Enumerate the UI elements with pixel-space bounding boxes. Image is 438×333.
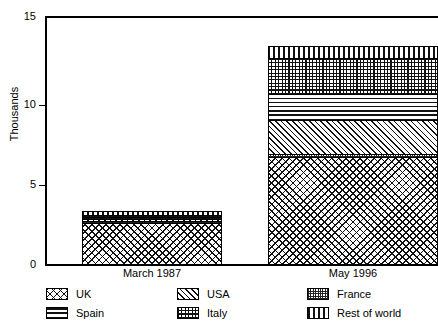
legend-swatch-spain: [46, 307, 68, 319]
legend-swatch-italy: [177, 307, 199, 319]
legend-item-italy[interactable]: Italy: [177, 304, 227, 321]
legend-label-spain: Spain: [76, 307, 104, 319]
y-tick-label-0: 0: [30, 259, 36, 270]
legend-item-rest-of-world[interactable]: Rest of world: [307, 304, 401, 321]
bar-march-1987[interactable]: [82, 211, 222, 265]
legend-label-italy: Italy: [207, 307, 227, 319]
legend-row-2: Spain Italy Rest of world: [46, 304, 430, 321]
bar-segment-usa: [268, 120, 438, 155]
legend-item-france[interactable]: France: [307, 285, 371, 302]
legend-swatch-usa: [177, 288, 199, 300]
stacked-bar-chart: Thousands 15 10 5 0: [0, 0, 438, 333]
legend-item-usa[interactable]: USA: [177, 285, 230, 302]
legend-swatch-rest-of-world: [307, 307, 329, 319]
x-axis-label-may-1996: May 1996: [268, 267, 438, 280]
legend-label-usa: USA: [207, 288, 230, 300]
bar-segment-italy: [82, 215, 222, 217]
bar-segment-uk: [82, 223, 222, 265]
legend: UK USA France Spain Italy Rest of: [46, 285, 430, 325]
bar-segment-usa: [82, 219, 222, 222]
bar-segment-italy: [268, 58, 438, 94]
legend-swatch-france: [307, 288, 329, 300]
bar-segment-spain: [82, 217, 222, 219]
legend-item-spain[interactable]: Spain: [46, 304, 104, 321]
bar-segment-france: [82, 221, 222, 223]
legend-label-france: France: [337, 288, 371, 300]
bar-segment-rest-of-world: [268, 46, 438, 58]
legend-item-uk[interactable]: UK: [46, 285, 91, 302]
y-tick-label-10: 10: [24, 99, 36, 110]
legend-row-1: UK USA France: [46, 285, 430, 302]
bar-may-1996[interactable]: [268, 46, 438, 265]
bar-segment-rest-of-world: [82, 211, 222, 215]
bar-segment-france: [268, 154, 438, 157]
bar-segment-uk: [268, 157, 438, 265]
plot-area: [46, 17, 438, 265]
y-axis-title: Thousands: [8, 54, 20, 174]
y-tick-label-5: 5: [30, 179, 36, 190]
legend-label-uk: UK: [76, 288, 91, 300]
bar-segment-spain: [268, 94, 438, 120]
y-tick-label-15: 15: [24, 11, 36, 22]
legend-label-rest-of-world: Rest of world: [337, 307, 401, 319]
legend-swatch-uk: [46, 288, 68, 300]
x-axis-label-march-1987: March 1987: [82, 267, 222, 280]
